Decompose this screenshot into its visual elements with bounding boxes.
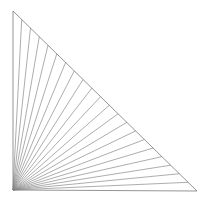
fan-line-5	[13, 54, 57, 190]
triangle-edge-hypotenuse	[13, 11, 197, 191]
figure-container	[0, 0, 215, 210]
triangle-edge-group	[13, 11, 197, 191]
triangle-edge-bottom	[13, 190, 197, 191]
fan-line-19	[13, 174, 180, 190]
fan-line-10	[13, 97, 101, 190]
fan-line-group	[13, 20, 188, 191]
fan-triangle-diagram	[0, 0, 215, 210]
fan-line-16	[13, 148, 153, 190]
fan-line-2	[13, 28, 31, 190]
